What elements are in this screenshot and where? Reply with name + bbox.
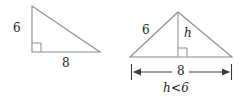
left-triangle-horizontal-leg-label: 8: [62, 57, 70, 69]
right-triangle-side-label: 6: [142, 24, 150, 36]
left-triangle-outline: [32, 6, 100, 52]
figure-canvas: [0, 0, 241, 97]
right-right-angle-marker-icon: [178, 48, 187, 57]
geometry-figure: 6 8 6 h 8 h<6: [0, 0, 241, 97]
dimension-arrow-left: [133, 69, 141, 76]
right-triangle-base-label: 8: [177, 65, 185, 77]
left-triangle-group: [32, 6, 100, 52]
dimension-arrow-right: [222, 69, 230, 76]
right-triangle-height-label: h: [184, 27, 192, 39]
height-inequality-label: h<6: [163, 82, 189, 94]
left-triangle-vertical-leg-label: 6: [13, 22, 21, 34]
left-right-angle-marker-icon: [32, 43, 41, 52]
